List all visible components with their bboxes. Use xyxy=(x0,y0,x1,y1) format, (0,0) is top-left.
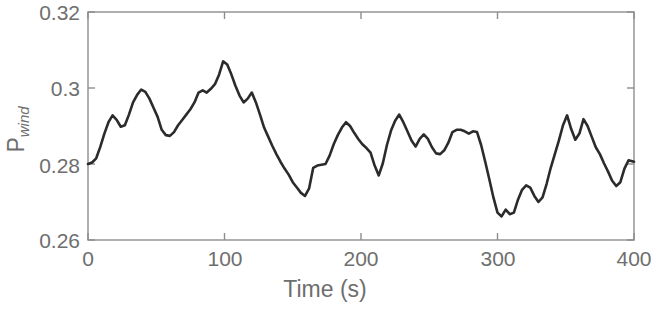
x-tick-label-300: 300 xyxy=(478,248,518,269)
axis-ticks xyxy=(88,12,634,240)
x-tick-label-100: 100 xyxy=(205,248,245,269)
x-tick-label-400: 400 xyxy=(614,248,654,269)
y-tick-label-032: 0.32 xyxy=(0,2,80,23)
y-axis-title-base: P xyxy=(3,137,29,152)
plot-frame xyxy=(88,12,634,240)
x-axis-title: Time (s) xyxy=(0,278,650,301)
data-line-p-wind xyxy=(88,61,634,216)
x-tick-label-200: 200 xyxy=(341,248,381,269)
axes-box xyxy=(88,12,634,240)
x-tick-label-0: 0 xyxy=(68,248,108,269)
y-axis-title-subscript: wind xyxy=(15,106,32,137)
y-axis-title: Pwind xyxy=(5,70,28,190)
